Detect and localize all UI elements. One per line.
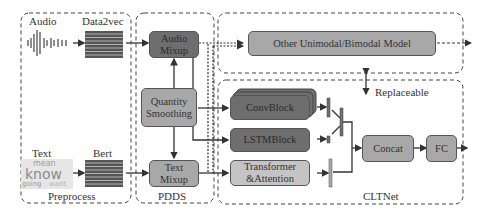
audio-mixup-box: Audio Mixup bbox=[149, 31, 199, 58]
quantity-smoothing-box: Quantity Smoothing bbox=[141, 88, 197, 127]
lstmblock-box: LSTMBlock bbox=[230, 128, 310, 152]
pdds-title: PDDS bbox=[158, 190, 186, 202]
fused-feature-bar bbox=[340, 108, 343, 136]
waveform-icon bbox=[28, 30, 66, 56]
audio-label: Audio bbox=[29, 15, 57, 27]
preprocess-title: Preprocess bbox=[48, 190, 96, 202]
convblock-box: ConvBlock bbox=[230, 95, 310, 120]
data2vec-stack-icon bbox=[85, 31, 123, 58]
fc-box: FC bbox=[426, 135, 457, 162]
text-mixup-box: Text Mixup bbox=[149, 160, 199, 187]
replaceable-label: Replaceable bbox=[375, 86, 429, 98]
text-label: Text bbox=[32, 147, 51, 159]
other-model-box: Other Unimodal/Bimodal Model bbox=[248, 31, 436, 56]
bert-stack-icon bbox=[85, 160, 123, 187]
bert-label: Bert bbox=[93, 147, 112, 159]
word-cloud-icon: mean know going want bbox=[21, 159, 73, 189]
conv-feature-bar bbox=[327, 98, 330, 117]
data2vec-label: Data2vec bbox=[82, 15, 124, 27]
lstm-feature-bar bbox=[327, 136, 330, 143]
cltnet-title: CLTNet bbox=[363, 190, 399, 202]
concat-box: Concat bbox=[362, 135, 414, 162]
transformer-feature-bar bbox=[329, 159, 332, 187]
transformer-attention-box: Transformer &Attention bbox=[230, 160, 310, 186]
